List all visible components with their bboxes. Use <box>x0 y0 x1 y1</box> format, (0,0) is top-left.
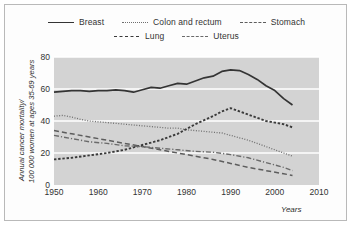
legend-swatch-dash-long-icon <box>240 18 266 27</box>
y-tick-20: 20 <box>41 148 50 158</box>
legend-row-2: Lung Uterus <box>5 29 348 43</box>
legend-swatch-dash-short-icon <box>114 32 140 41</box>
x-tick-1960: 1960 <box>89 187 108 197</box>
legend-item-stomach: Stomach <box>240 17 305 27</box>
x-tick-1950: 1950 <box>45 187 64 197</box>
legend-item-breast: Breast <box>48 17 104 27</box>
y-axis-title-line2: 100 000 women at ages 35-69 years <box>27 60 37 183</box>
x-tick-1990: 1990 <box>221 187 240 197</box>
x-tick-1980: 1980 <box>177 187 196 197</box>
chart-legend: Breast Colon and rectum Stomach Lung Ute… <box>5 15 348 43</box>
legend-swatch-dash-dot-icon <box>182 32 208 41</box>
x-tick-2010: 2010 <box>310 187 329 197</box>
x-tick-1970: 1970 <box>133 187 152 197</box>
y-tick-80: 80 <box>41 52 50 62</box>
legend-item-uterus: Uterus <box>182 31 239 41</box>
legend-swatch-solid-icon <box>48 18 74 27</box>
y-axis-title-line1: Annual cancer mortality/ <box>17 100 27 181</box>
chart-frame: Breast Colon and rectum Stomach Lung Ute… <box>4 4 347 221</box>
plot-area: Annual cancer mortality/ 100 000 women a… <box>54 57 319 185</box>
y-tick-60: 60 <box>41 84 50 94</box>
legend-label-breast: Breast <box>79 17 104 27</box>
legend-label-stomach: Stomach <box>271 17 305 27</box>
legend-label-lung: Lung <box>145 31 164 41</box>
legend-item-colon-and-rectum: Colon and rectum <box>122 17 222 27</box>
legend-label-uterus: Uterus <box>213 31 239 41</box>
series-line-breast <box>54 70 293 105</box>
y-tick-40: 40 <box>41 116 50 126</box>
x-axis-title: Years <box>281 205 301 214</box>
legend-row-1: Breast Colon and rectum Stomach <box>5 15 348 29</box>
legend-label-colon-and-rectum: Colon and rectum <box>153 17 222 27</box>
legend-item-lung: Lung <box>114 31 164 41</box>
x-tick-2000: 2000 <box>265 187 284 197</box>
chart-svg <box>54 57 319 185</box>
legend-swatch-dotted-icon <box>122 18 148 27</box>
